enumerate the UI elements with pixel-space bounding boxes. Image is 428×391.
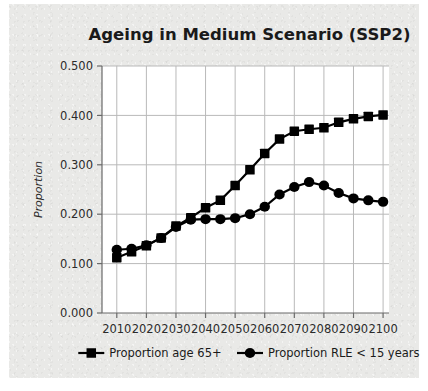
series-marker-square [334,118,344,128]
y-axis-title: Proportion [32,161,45,218]
x-tick-label: 2070 [280,322,309,336]
x-tick-label: 2080 [309,322,338,336]
legend-marker-circle [245,348,255,358]
series-marker-circle [215,214,225,224]
y-tick-label: 0.300 [60,158,93,172]
x-tick-label: 2030 [161,322,190,336]
y-tick-label: 0.000 [60,306,93,320]
series-marker-square [216,196,226,206]
x-tick-label: 2100 [368,322,397,336]
series-marker-circle [319,181,329,191]
series-marker-circle [186,215,196,225]
series-marker-circle [141,240,151,250]
series-marker-circle [348,193,358,203]
legend-item-2[interactable]: Proportion RLE < 15 years [237,346,420,360]
y-tick-label: 0.500 [60,59,93,73]
plot-background-group [102,66,389,313]
legend-label: Proportion age 65+ [109,346,221,360]
x-axis-tick-labels: 2010202020302040205020602070208020902100 [102,322,398,336]
series-marker-square [230,181,240,191]
series-marker-square [378,110,388,120]
series-marker-square [275,134,285,144]
series-marker-circle [200,214,210,224]
series-marker-square [304,124,314,134]
y-tick-label: 0.100 [60,257,93,271]
series-marker-square [364,112,374,122]
series-marker-square [201,203,211,213]
series-marker-square [260,149,270,159]
y-axis-tick-labels: 0.5000.4000.3000.2000.1000.000 [60,59,93,320]
series-marker-circle [230,213,240,223]
series-marker-circle [112,245,122,255]
x-tick-label: 2040 [191,322,220,336]
series-marker-circle [289,182,299,192]
legend-item-1[interactable]: Proportion age 65+ [78,346,221,360]
series-marker-circle [378,197,388,207]
series-marker-circle [334,188,344,198]
series-marker-square [245,165,255,175]
x-tick-label: 2050 [221,322,250,336]
series-marker-circle [171,222,181,232]
series-marker-square [290,126,300,135]
plot-area-background [102,66,389,313]
x-tick-label: 2010 [102,322,131,336]
chart-title: Ageing in Medium Scenario (SSP2) [89,25,411,44]
series-marker-circle [260,202,270,212]
x-tick-label: 2090 [339,322,368,336]
series-marker-circle [156,233,166,243]
legend-label: Proportion RLE < 15 years [268,346,420,360]
series-marker-square [349,114,359,124]
series-marker-circle [245,209,255,219]
series-marker-circle [304,177,314,187]
legend-marker-square [87,348,97,358]
series-marker-circle [126,244,136,254]
series-marker-circle [363,195,373,205]
chart-figure: 0.5000.4000.3000.2000.1000.000 201020202… [0,0,428,391]
y-tick-label: 0.200 [60,207,93,221]
y-tick-label: 0.400 [60,109,93,123]
x-tick-label: 2060 [250,322,279,336]
series-marker-square [319,123,329,133]
x-tick-label: 2020 [132,322,161,336]
chart-legend: Proportion age 65+Proportion RLE < 15 ye… [78,346,419,360]
ageing-line-chart: 0.5000.4000.3000.2000.1000.000 201020202… [0,0,428,391]
series-marker-circle [274,189,284,199]
